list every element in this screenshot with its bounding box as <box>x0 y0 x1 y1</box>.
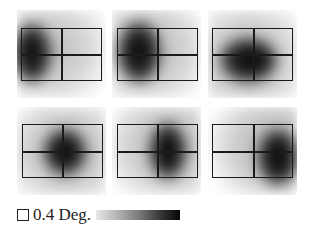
grid-horizontal-line <box>118 54 197 56</box>
heatmap-panel-5 <box>112 107 201 195</box>
grid-overlay <box>212 124 293 178</box>
grid-horizontal-line <box>22 54 101 56</box>
scale-label: 0.4 Deg. <box>33 205 91 225</box>
grid-overlay <box>22 124 103 178</box>
square-outline-icon <box>17 209 29 221</box>
grid-horizontal-line <box>118 151 197 153</box>
grid-overlay <box>21 28 102 81</box>
grid-horizontal-line <box>23 151 102 153</box>
grid-horizontal-line <box>213 54 292 56</box>
heatmap-panel-3 <box>208 10 297 98</box>
heatmap-panel-2 <box>112 10 201 98</box>
grayscale-colorbar <box>96 210 180 220</box>
grid-overlay <box>117 124 198 178</box>
heatmap-panel-4 <box>17 107 106 195</box>
heatmap-panel-1 <box>17 10 106 98</box>
grid-overlay <box>212 28 293 81</box>
grid-overlay <box>117 28 198 81</box>
heatmap-panel-6 <box>208 107 297 195</box>
grid-horizontal-line <box>213 151 292 153</box>
